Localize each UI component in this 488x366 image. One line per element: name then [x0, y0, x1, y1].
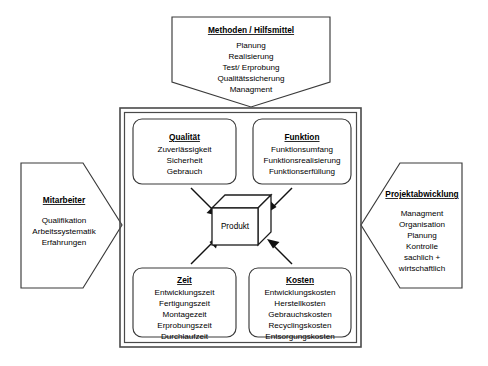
node-projektabwicklung[interactable]: Projektabwicklung Managment Organisation…: [361, 163, 462, 288]
node-methoden-item-2: Test/ Erprobung: [222, 63, 279, 72]
node-methoden-item-3: Qualitätssicherung: [217, 74, 284, 83]
node-methoden-title: Methoden / Hilfsmittel: [208, 25, 294, 35]
node-methoden-item-0: Planung: [236, 41, 266, 50]
node-zeit-item-0: Entwicklungszeit: [155, 288, 216, 297]
node-mitarbeiter-item-2: Erfahrungen: [42, 238, 87, 247]
node-kosten-title: Kosten: [286, 275, 314, 285]
node-kosten[interactable]: Kosten Entwicklungskosten Herstellkosten…: [249, 268, 351, 341]
node-funktion[interactable]: Funktion Funktionsumfang Funktionsrealis…: [253, 119, 351, 184]
node-zeit-title: Zeit: [177, 275, 192, 285]
node-projektabwicklung-item-0: Managment: [401, 209, 444, 218]
node-qualitaet-item-2: Gebrauch: [167, 167, 203, 176]
pentagon-right-shape: [21, 163, 122, 288]
node-projektabwicklung-item-4: sachlich +: [404, 253, 440, 262]
node-kosten-item-0: Entwicklungskosten: [264, 288, 335, 297]
node-qualitaet[interactable]: Qualität Zuverlässigkeit Sicherheit Gebr…: [133, 119, 236, 184]
node-zeit[interactable]: Zeit Entwicklungszeit Fertigungszeit Mon…: [133, 268, 236, 341]
node-zeit-item-3: Erprobungszeit: [157, 321, 212, 330]
node-mitarbeiter-item-1: Arbeitssystematik: [32, 227, 96, 236]
node-zeit-item-2: Montagezeit: [162, 310, 207, 319]
node-kosten-item-2: Gebrauchskosten: [268, 310, 331, 319]
node-qualitaet-title: Qualität: [169, 132, 200, 142]
node-funktion-item-1: Funktionsrealisierung: [264, 156, 341, 165]
arrow-kosten-to-produkt: [267, 239, 292, 264]
diagram-canvas: Methoden / Hilfsmittel Planung Realisier…: [0, 0, 488, 366]
node-zeit-item-1: Fertigungszeit: [159, 299, 211, 308]
node-projektabwicklung-title: Projektabwicklung: [385, 189, 458, 199]
node-funktion-title: Funktion: [284, 132, 319, 142]
node-zeit-item-4: Durchlaufzeit: [161, 332, 209, 341]
node-methoden-item-4: Managment: [230, 85, 273, 94]
node-qualitaet-item-1: Sicherheit: [167, 156, 204, 165]
node-methoden[interactable]: Methoden / Hilfsmittel Planung Realisier…: [172, 17, 330, 107]
node-kosten-item-3: Recyclingskosten: [269, 321, 332, 330]
node-projektabwicklung-item-5: wirtschaftlich: [398, 264, 445, 273]
node-projektabwicklung-item-3: Kontrolle: [406, 242, 438, 251]
node-mitarbeiter-title: Mitarbeiter: [43, 195, 86, 205]
node-methoden-item-1: Realisierung: [229, 52, 274, 61]
node-funktion-item-2: Funktionserfüllung: [269, 167, 335, 176]
node-qualitaet-item-0: Zuverlässigkeit: [158, 145, 213, 154]
node-projektabwicklung-item-2: Planung: [407, 231, 437, 240]
product-influence-factors-diagram: Methoden / Hilfsmittel Planung Realisier…: [0, 0, 488, 366]
center-node-produkt[interactable]: Produkt: [212, 195, 271, 245]
node-projektabwicklung-item-1: Organisation: [399, 220, 445, 229]
node-kosten-item-4: Entsorgungskosten: [265, 332, 334, 341]
node-mitarbeiter-item-0: Qualifikation: [42, 216, 87, 225]
center-node-label: Produkt: [221, 222, 250, 231]
node-mitarbeiter[interactable]: Mitarbeiter Qualifikation Arbeitssystema…: [21, 163, 122, 288]
node-funktion-item-0: Funktionsumfang: [271, 145, 333, 154]
node-kosten-item-1: Herstellkosten: [274, 299, 325, 308]
